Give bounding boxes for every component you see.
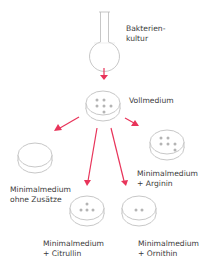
plate-label-citrullin-1: Minimalmedium: [43, 239, 104, 248]
flask-label-1: Bakterien-: [126, 24, 166, 33]
plate-label-ohne-2: ohne Zusätze: [10, 195, 62, 204]
plate-vollmedium: [86, 91, 120, 121]
plate-label-ohne-1: Minimalmedium: [10, 185, 71, 194]
plate-arginin: [150, 130, 184, 160]
flask-label-2: kultur: [126, 34, 149, 43]
arrow-citrullin-icon: [84, 128, 97, 186]
plate-label-arginin-1: Minimalmedium: [137, 169, 198, 178]
plate-label-ornithin-1: Minimalmedium: [138, 239, 199, 248]
plate-label-vollmedium: Vollmedium: [129, 96, 174, 105]
plate-ohne-zusaetze: [18, 143, 52, 173]
arrow-ornithin-icon: [111, 128, 128, 186]
plate-ornithin: [122, 196, 156, 226]
plate-label-citrullin-2: + Citrullin: [43, 249, 81, 258]
plate-label-arginin-2: + Arginin: [137, 179, 173, 188]
arrow-left-icon: [54, 117, 79, 131]
arrow-right-icon: [125, 118, 139, 126]
plate-citrullin: [70, 196, 104, 226]
flask-icon: [90, 12, 120, 71]
replica-plating-diagram: Bakterien- kultur Vollmedium Minimalmedi…: [0, 0, 209, 265]
plate-label-ornithin-2: + Ornithin: [138, 249, 178, 258]
